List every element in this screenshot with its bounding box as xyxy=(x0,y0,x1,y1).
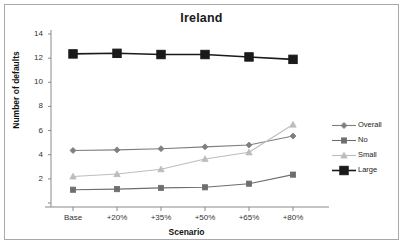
data-point-marker xyxy=(114,147,120,153)
legend-item-no[interactable]: No xyxy=(331,132,401,147)
data-point-marker xyxy=(70,147,76,153)
data-point-marker xyxy=(202,185,207,190)
data-point-marker xyxy=(202,144,208,150)
data-point-marker xyxy=(246,149,252,155)
legend-item-small[interactable]: Small xyxy=(331,147,401,162)
data-point-marker xyxy=(246,142,252,148)
legend-marker-icon xyxy=(331,163,357,176)
data-point-marker xyxy=(201,50,209,58)
chart-legend: OverallNoSmallLarge xyxy=(331,117,401,177)
data-point-marker xyxy=(289,55,297,63)
data-point-marker xyxy=(158,185,163,190)
legend-marker-icon xyxy=(331,118,357,131)
data-point-marker xyxy=(340,166,348,174)
axis-lines xyxy=(45,30,329,207)
data-point-marker xyxy=(290,172,295,177)
data-point-marker xyxy=(113,49,121,57)
data-point-marker xyxy=(157,50,165,58)
legend-marker-icon xyxy=(331,148,357,161)
legend-item-overall[interactable]: Overall xyxy=(331,117,401,132)
data-point-marker xyxy=(246,181,251,186)
chart-container: Ireland Number of defaults Scenario 2468… xyxy=(4,4,399,240)
series-large xyxy=(69,49,297,63)
data-point-marker xyxy=(69,50,77,58)
data-point-marker xyxy=(158,146,164,152)
legend-label: No xyxy=(357,135,368,144)
legend-label: Large xyxy=(357,165,377,174)
legend-marker-icon xyxy=(331,133,357,146)
data-point-marker xyxy=(114,187,119,192)
legend-item-large[interactable]: Large xyxy=(331,162,401,177)
legend-label: Small xyxy=(357,150,377,159)
data-point-marker xyxy=(290,121,296,127)
series-overall xyxy=(70,133,296,153)
data-point-marker xyxy=(341,138,346,143)
legend-label: Overall xyxy=(357,120,382,129)
data-point-marker xyxy=(70,187,75,192)
data-point-marker xyxy=(341,123,347,129)
data-point-marker xyxy=(290,133,296,139)
x-axis-ticks xyxy=(73,207,293,211)
data-point-marker xyxy=(245,53,253,61)
